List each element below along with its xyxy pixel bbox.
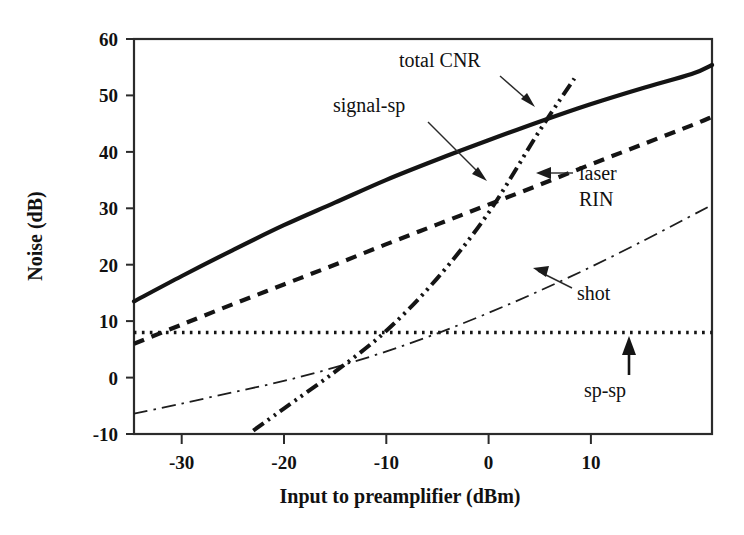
y-tick-label: 10: [99, 311, 118, 332]
plot-frame: [134, 39, 712, 434]
annotation-label-shot: shot: [577, 282, 611, 304]
annotation-label-rin: RIN: [579, 188, 613, 210]
y-tick-label: 0: [109, 368, 119, 389]
figure-container: 60 50 40 30 20 10 0 -10 -30 -20 -10 0 10…: [0, 0, 744, 535]
x-tick-label: 10: [581, 452, 600, 473]
series-laser-rin: [253, 79, 574, 431]
y-axis-tick-labels: 60 50 40 30 20 10 0 -10: [93, 29, 118, 445]
noise-vs-input-chart: 60 50 40 30 20 10 0 -10 -30 -20 -10 0 10…: [0, 0, 744, 535]
y-tick-label: 20: [99, 255, 118, 276]
leader-arrowhead-total-cnr: [521, 93, 535, 107]
annotation-label-laser: laser: [579, 162, 617, 184]
x-axis-title: Input to preamplifier (dBm): [280, 485, 521, 508]
x-axis-tick-labels: -30 -20 -10 0 10: [169, 452, 600, 473]
annotation-label-signal-sp: signal-sp: [333, 94, 405, 117]
y-tick-label: 60: [99, 29, 118, 50]
annotation-label-sp-sp: sp-sp: [584, 379, 626, 402]
x-tick-label: -30: [169, 452, 194, 473]
series-signal-sp: [134, 117, 712, 344]
x-tick-label: -10: [374, 452, 399, 473]
series-total-cnr: [134, 65, 712, 301]
y-tick-label: 50: [99, 85, 118, 106]
annotation-label-total-cnr: total CNR: [399, 49, 481, 71]
y-axis-title: Noise (dB): [24, 191, 47, 280]
y-tick-label: 30: [99, 198, 118, 219]
sp-sp-arrow-head: [622, 336, 636, 355]
y-tick-label: 40: [99, 142, 118, 163]
x-tick-label: 0: [484, 452, 494, 473]
leader-line-signal-sp: [428, 122, 483, 177]
x-tick-label: -20: [271, 452, 296, 473]
leader-arrowhead-laser-rin: [536, 167, 551, 179]
y-axis-ticks: [126, 39, 134, 434]
y-tick-label: -10: [93, 424, 118, 445]
x-axis-ticks: [182, 434, 591, 444]
